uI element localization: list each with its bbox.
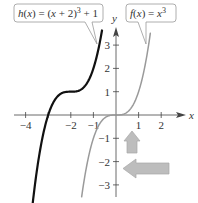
shift-left-arrow-icon	[123, 159, 169, 178]
y-tick-label: −1	[98, 132, 110, 144]
y-tick-label: 3	[105, 39, 111, 51]
callouts: h(x) = (x + 2)3 + 1f(x) = x3	[14, 4, 176, 44]
coordinate-plane: xy−4−2−112321−1−2−3 h(x) = (x + 2)3 + 1f…	[0, 0, 198, 203]
x-tick-label: 1	[136, 119, 142, 131]
shift-up-arrow-icon	[124, 131, 140, 153]
callout-h-label: h(x) = (x + 2)3 + 1	[18, 6, 98, 21]
x-tick-label: −4	[20, 119, 32, 131]
y-tick-label: 1	[105, 86, 111, 98]
shift-arrows	[123, 131, 169, 178]
h-curve	[33, 30, 102, 203]
y-tick-label: −2	[98, 156, 110, 168]
x-tick-label: −2	[65, 119, 77, 131]
y-tick-label: −3	[98, 179, 110, 191]
x-axis-label: x	[188, 109, 194, 121]
x-tick-label: 2	[158, 119, 164, 131]
y-axis-label: y	[111, 12, 117, 24]
y-tick-label: 2	[105, 62, 111, 74]
curves	[33, 30, 151, 203]
callout-f-label: f(x) = x3	[130, 6, 166, 21]
graph-figure: xy−4−2−112321−1−2−3 h(x) = (x + 2)3 + 1f…	[0, 0, 198, 203]
